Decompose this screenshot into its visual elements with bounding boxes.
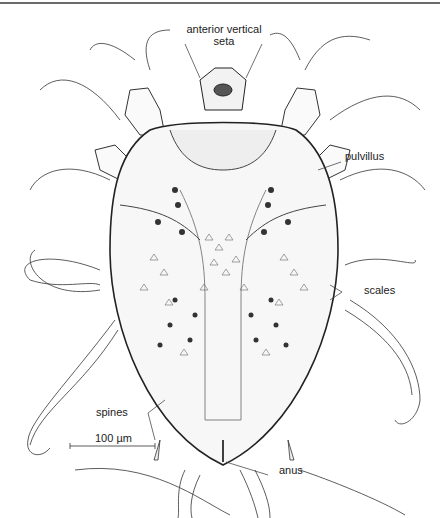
mite-illustration bbox=[0, 0, 446, 518]
label-line-2: seta bbox=[176, 35, 272, 47]
pulvillus-label: pulvillus bbox=[345, 150, 384, 162]
scales-label: scales bbox=[364, 284, 395, 296]
label-line-1: anterior vertical bbox=[176, 23, 272, 35]
body bbox=[110, 123, 338, 466]
anus-label: anus bbox=[279, 464, 303, 476]
seta bbox=[40, 80, 120, 120]
anterior-vertical-seta-label: anterior vertical seta bbox=[176, 23, 272, 47]
spines-label: spines bbox=[96, 406, 128, 418]
scale-bar-label: 100 µm bbox=[95, 432, 132, 444]
